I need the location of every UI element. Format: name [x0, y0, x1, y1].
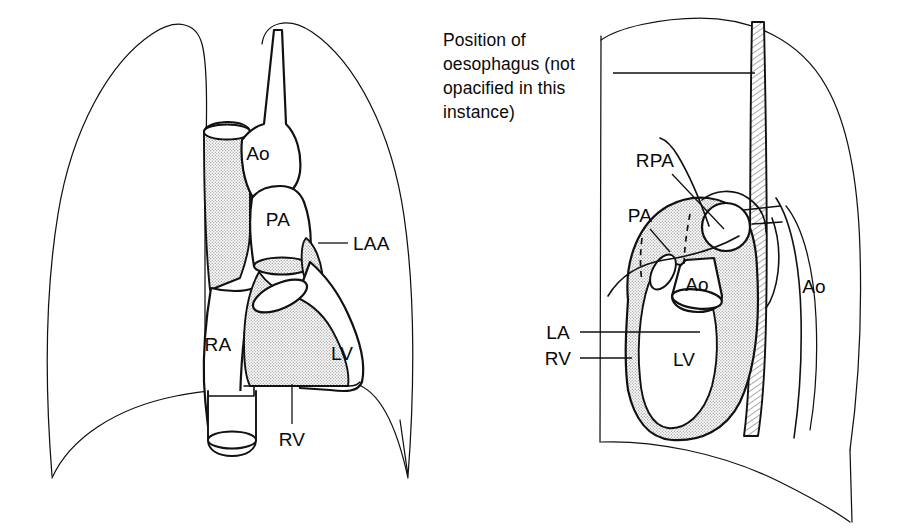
- label-ao-frontal: Ao: [246, 143, 270, 164]
- oesophagus-caption: Position of oesophagus (not opacified in…: [443, 30, 755, 122]
- label-ao-descending: Ao: [802, 276, 826, 297]
- ivc-bottom-ellipse: [208, 432, 256, 449]
- posterior-aorta-hook: [766, 218, 779, 308]
- caption-line-1: Position of: [443, 30, 526, 50]
- label-pa-frontal: PA: [266, 209, 290, 230]
- label-ao-lateral-mid: Ao: [685, 274, 709, 295]
- anterior-chest-wall: [600, 36, 601, 442]
- caption-line-2: oesophagus (not: [443, 54, 575, 74]
- label-laa: LAA: [353, 233, 390, 254]
- costophrenic-angle-lateral: [850, 450, 852, 522]
- rpa-cross-section: [702, 203, 750, 251]
- diagram-canvas: Ao PA LAA RA LV RV: [0, 0, 911, 528]
- label-ra: RA: [205, 334, 232, 355]
- label-rv-lateral: RV: [545, 348, 572, 369]
- right-lung-outline: [47, 24, 206, 476]
- label-lv-lateral: LV: [673, 349, 695, 370]
- left-hemidiaphragm: [356, 384, 408, 478]
- lateral-panel: Position of oesophagus (not opacified in…: [443, 18, 861, 522]
- label-rv-frontal: RV: [279, 429, 306, 450]
- right-hemidiaphragm: [52, 391, 212, 478]
- diaphragm-lateral: [601, 442, 850, 522]
- cardiac-radiograph-diagram: Ao PA LAA RA LV RV: [0, 0, 911, 528]
- label-rpa: RPA: [636, 150, 674, 171]
- label-la: LA: [546, 322, 570, 343]
- descending-aorta-outer: [776, 198, 801, 438]
- ao-shape-frontal: [241, 30, 300, 196]
- caption-line-3: opacified in this: [443, 78, 565, 98]
- frontal-panel: Ao PA LAA RA LV RV: [47, 23, 412, 478]
- label-pa-lateral: PA: [628, 205, 652, 226]
- label-lv-frontal: LV: [331, 343, 353, 364]
- caption-line-4: instance): [443, 102, 515, 122]
